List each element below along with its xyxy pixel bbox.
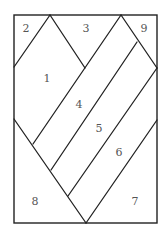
region-label-7: 7 — [132, 195, 139, 208]
region-label-2: 2 — [23, 22, 30, 35]
region-label-5: 5 — [96, 122, 103, 135]
region-label-9: 9 — [141, 22, 148, 35]
divider-line-c — [121, 15, 157, 68]
region-label-1: 1 — [44, 72, 51, 85]
dividing-lines — [14, 15, 157, 223]
region-label-3: 3 — [83, 22, 90, 35]
region-label-8: 8 — [32, 195, 39, 208]
divider-line-e — [51, 42, 137, 170]
divider-line-a — [14, 15, 50, 67]
divider-line-f — [68, 68, 157, 196]
divider-line-g — [86, 120, 157, 223]
region-label-6: 6 — [116, 146, 123, 159]
partition-diagram: 2 3 9 1 4 5 6 8 7 — [0, 0, 164, 239]
divider-line-b — [50, 15, 85, 68]
region-labels: 2 3 9 1 4 5 6 8 7 — [23, 22, 148, 208]
region-label-4: 4 — [76, 98, 83, 111]
